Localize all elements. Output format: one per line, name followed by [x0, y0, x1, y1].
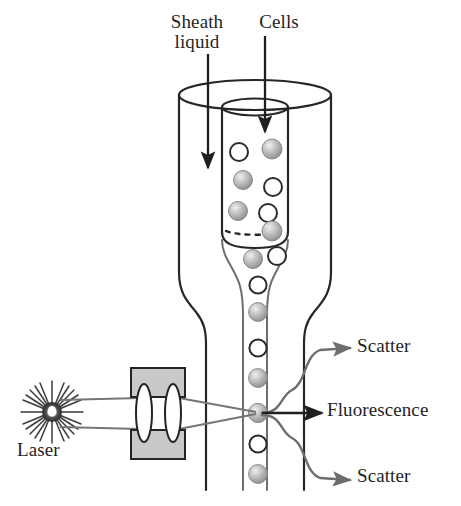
- flow-cytometer-diagram: [0, 0, 461, 506]
- lens-assembly: [131, 368, 185, 459]
- cell-sphere: [262, 221, 282, 241]
- cell-sphere: [234, 171, 253, 190]
- outer-chamber-right-wall: [304, 95, 331, 490]
- cell-sphere: [229, 202, 248, 221]
- cell-hollow: [249, 435, 266, 452]
- cell-sphere: [262, 139, 282, 159]
- scatter-bottom-arrow: [262, 415, 350, 480]
- cell-hollow: [268, 247, 286, 265]
- inner-tube-rim: [222, 99, 288, 116]
- sheath-liquid-label-line1: Sheath: [150, 12, 244, 32]
- scatter-top-label: Scatter: [357, 336, 410, 356]
- cell-sphere: [249, 369, 268, 388]
- laser-label: Laser: [17, 440, 60, 460]
- scatter-bottom-label: Scatter: [357, 466, 410, 486]
- beam-lower-edge: [60, 427, 141, 429]
- outer-chamber-rim: [179, 80, 331, 110]
- sheath-liquid-label-line2: liquid: [150, 32, 244, 52]
- cell-hollow: [264, 178, 282, 196]
- lens-element-first: [136, 384, 152, 442]
- cell-hollow: [249, 339, 266, 356]
- cell-sphere: [244, 250, 263, 269]
- lens-element-second: [165, 384, 181, 442]
- cells-in-stream: [244, 247, 287, 483]
- figure-canvas: Sheath liquid Cells Laser Scatter Fluore…: [0, 0, 461, 506]
- fluorescence-label: Fluorescence: [327, 400, 428, 420]
- laser-aperture: [48, 406, 56, 416]
- core-stream-right-edge: [267, 240, 288, 490]
- laser-source-icon: [21, 381, 83, 443]
- cells-in-tube: [229, 139, 283, 241]
- cell-hollow: [259, 204, 277, 222]
- cell-hollow: [230, 143, 248, 161]
- sheath-liquid-label: Sheath liquid: [150, 12, 244, 52]
- cell-hollow: [249, 276, 266, 293]
- cell-sphere: [249, 465, 268, 484]
- beam-upper-converging: [179, 398, 256, 412]
- beam-lower-converging: [179, 414, 256, 429]
- core-stream-left-edge: [222, 240, 243, 490]
- cell-sphere: [249, 303, 268, 322]
- cells-label: Cells: [241, 12, 317, 32]
- laser-beam: [60, 398, 256, 429]
